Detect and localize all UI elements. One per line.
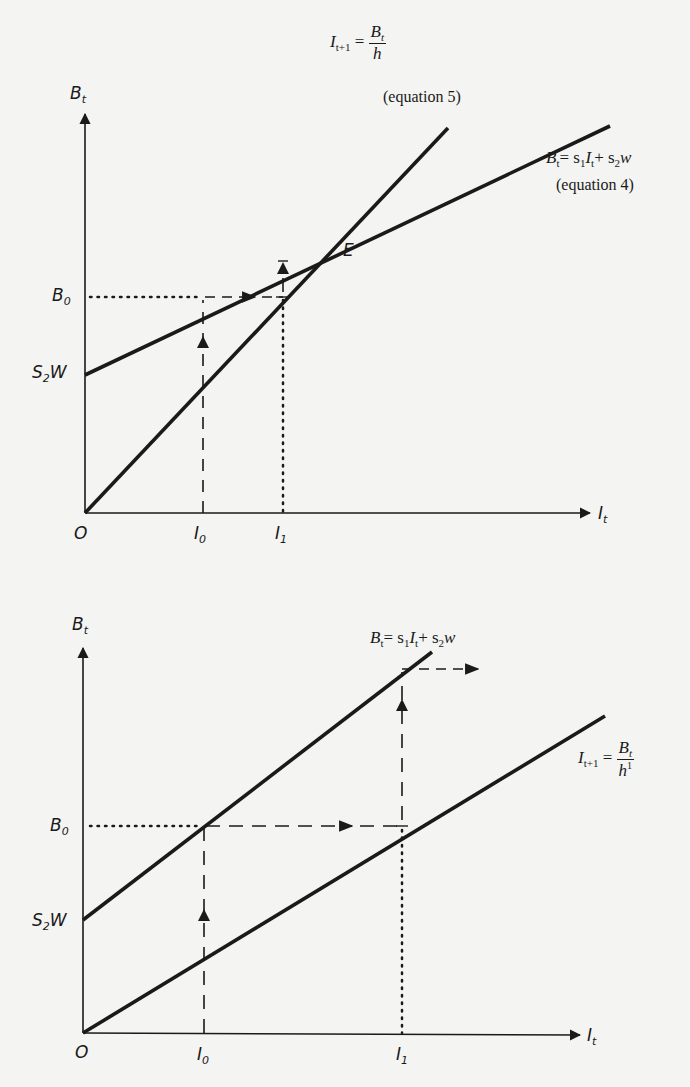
bottom-s2w-label: S2W xyxy=(32,910,67,933)
top-x-axis-label: It xyxy=(598,503,607,526)
bottom-savings-line xyxy=(83,652,432,920)
bottom-investment-line xyxy=(83,716,605,1033)
top-b0-label: B0 xyxy=(52,285,71,308)
bottom-origin-label: O xyxy=(75,1042,88,1062)
top-investment-line xyxy=(85,128,448,513)
bottom-y-axis-label: Bt xyxy=(72,614,88,637)
top-y-axis-label: Bt xyxy=(70,83,86,106)
bottom-x-axis xyxy=(83,1033,580,1035)
bottom-up-arrow-i1 xyxy=(396,699,408,711)
top-equation-4: Bt= s1It+ s2w xyxy=(546,148,631,169)
bottom-chart xyxy=(83,648,605,1035)
diagram-page: Bt It O B0 S2W I0 I1 E It+1 = Bth (equat… xyxy=(0,0,690,1087)
bottom-b0-label: B0 xyxy=(50,815,69,838)
top-equation-5-note: (equation 5) xyxy=(383,88,461,106)
top-i0-label: I0 xyxy=(194,523,206,546)
bottom-equation-lower: It+1 = Bth1 xyxy=(578,738,634,781)
top-up-arrow-i0 xyxy=(197,336,209,348)
bottom-i0-label: I0 xyxy=(197,1044,209,1067)
top-chart xyxy=(85,114,610,513)
top-up-arrow-i1 xyxy=(277,262,289,274)
top-s2w-label: S2W xyxy=(32,362,67,385)
bottom-equation-upper: Bt= s1It+ s2w xyxy=(370,628,455,649)
top-equation-4-note: (equation 4) xyxy=(556,176,634,194)
top-equation-5: It+1 = Bth xyxy=(330,22,386,64)
equilibrium-label: E xyxy=(343,240,354,260)
top-i1-label: I1 xyxy=(275,523,287,546)
bottom-i1-label: I1 xyxy=(396,1044,408,1067)
bottom-up-arrow-i0 xyxy=(198,909,210,921)
bottom-x-axis-label: It xyxy=(587,1025,596,1048)
top-origin-label: O xyxy=(74,523,87,543)
